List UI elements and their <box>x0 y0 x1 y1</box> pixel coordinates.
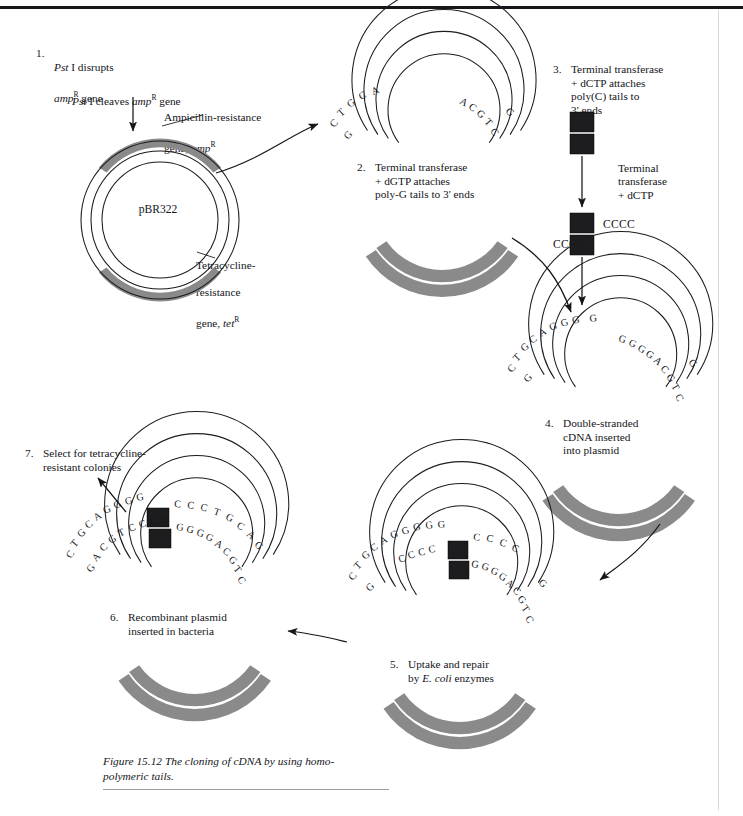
tet-gene-arc <box>99 267 221 301</box>
step5-cdna-block-top <box>448 541 468 559</box>
svg-text:A: A <box>245 528 258 542</box>
svg-text:T: T <box>212 505 222 518</box>
cdna-tailed <box>570 213 594 255</box>
svg-text:A: A <box>91 509 104 523</box>
svg-text:G: G <box>589 312 598 324</box>
svg-text:C: C <box>406 548 416 561</box>
svg-text:G: G <box>176 521 185 533</box>
svg-text:C: C <box>523 614 536 625</box>
step5-cdna-block-bottom <box>449 561 469 579</box>
amp-gene-arc <box>99 139 221 173</box>
step5-sequence-inner-left-tail: C C C C <box>397 543 437 565</box>
svg-text:A: A <box>90 550 103 563</box>
svg-text:C: C <box>82 518 94 531</box>
svg-text:G: G <box>363 580 377 593</box>
svg-text:C: C <box>235 574 248 586</box>
step5-sequence-far-right-inner: G <box>537 577 550 590</box>
svg-text:C: C <box>127 521 138 534</box>
svg-text:G: G <box>101 502 113 515</box>
cdna-tailed-block-top <box>570 213 594 233</box>
cdna-tailed-block-bottom <box>570 235 594 255</box>
svg-text:G: G <box>135 491 145 503</box>
svg-text:G: G <box>224 511 236 524</box>
svg-text:G: G <box>687 357 700 370</box>
step5-sequence-left-inner: G <box>363 580 377 593</box>
svg-text:C: C <box>187 499 195 511</box>
tet-label-leader <box>197 252 215 258</box>
svg-text:G: G <box>425 519 435 531</box>
cdna-block-top <box>570 112 594 132</box>
svg-text:G: G <box>475 107 488 121</box>
svg-text:C: C <box>97 541 109 554</box>
svg-text:G: G <box>437 518 446 530</box>
arrow-step1-to-step2 <box>216 124 318 173</box>
svg-text:T: T <box>511 351 524 364</box>
svg-text:C: C <box>327 117 340 130</box>
svg-text:C: C <box>417 546 426 558</box>
svg-text:C: C <box>346 570 359 582</box>
plasmid-step4 <box>529 231 713 541</box>
plasmid-step2 <box>352 0 536 297</box>
step2-arc-inner <box>388 54 500 143</box>
step5-cdna-insert <box>448 541 469 579</box>
arrow-step5-to-step6 <box>288 631 347 642</box>
step5-sequence-inner-right: G G G G A C G T C <box>471 558 537 625</box>
svg-text:C: C <box>527 333 539 346</box>
svg-text:A: A <box>378 533 390 547</box>
step2-sequence-left-outer: C T G C A <box>327 84 381 130</box>
plasmid-pbr322 <box>81 139 239 302</box>
arrow-step2-to-step4 <box>512 238 571 312</box>
svg-text:G: G <box>204 531 216 544</box>
step2-sequence-left-inner: G <box>341 128 355 141</box>
svg-text:C: C <box>357 89 368 102</box>
cdna-untailed <box>570 112 594 154</box>
svg-text:G: G <box>547 320 559 333</box>
step2-sequence-right-outer: A C G T C <box>458 95 501 138</box>
svg-text:C: C <box>64 548 77 560</box>
svg-text:G: G <box>388 528 400 541</box>
svg-text:C: C <box>488 126 501 138</box>
svg-text:C: C <box>200 501 209 513</box>
svg-text:C: C <box>235 519 247 532</box>
svg-text:G: G <box>106 532 119 546</box>
svg-text:T: T <box>483 116 496 129</box>
svg-text:A: A <box>537 325 549 339</box>
svg-text:G: G <box>480 560 491 573</box>
svg-text:C: C <box>137 517 147 530</box>
svg-text:T: T <box>669 381 682 393</box>
plasmid-step6 <box>105 411 289 721</box>
step6-cdna-block-bottom <box>149 529 171 548</box>
svg-text:G: G <box>186 523 196 535</box>
svg-text:G: G <box>253 539 267 552</box>
svg-text:G: G <box>559 316 570 329</box>
svg-text:G: G <box>471 558 480 570</box>
svg-text:C: C <box>505 362 518 374</box>
figure-page: 1. Pst I disrupts ampR gene Pst I cleave… <box>0 0 743 816</box>
step4-sequence-left-outer: C T G C A G G G G <box>505 312 598 374</box>
svg-text:T: T <box>352 559 365 572</box>
svg-text:C: C <box>510 542 521 555</box>
step5-sequence-outer-right-tail: C C C C <box>473 531 521 555</box>
svg-text:T: T <box>335 106 348 119</box>
svg-text:A: A <box>370 84 382 97</box>
svg-text:G: G <box>112 498 123 511</box>
plasmid-mid-ring <box>91 151 229 289</box>
svg-text:G: G <box>400 524 411 537</box>
step4-arc-outer <box>529 231 713 374</box>
svg-text:C: C <box>673 392 686 403</box>
plasmid-inner-ring <box>102 162 218 278</box>
cdna-block-bottom <box>570 134 594 154</box>
svg-text:G: G <box>341 128 355 141</box>
svg-text:T: T <box>116 526 127 539</box>
svg-text:C: C <box>473 531 481 543</box>
step4-sequence-right-inner: G <box>687 357 700 370</box>
svg-text:C: C <box>174 498 182 509</box>
svg-text:G: G <box>504 105 517 119</box>
svg-text:G: G <box>537 577 550 590</box>
step2-sequence-right-inner: G <box>504 105 517 119</box>
diagram-vectors: C T G C A G A C G T C G <box>0 0 743 816</box>
step6-sequence-inner-right: G G G G A C G T C <box>176 521 249 586</box>
svg-text:G: G <box>521 371 535 384</box>
amp-label-leader <box>162 115 203 126</box>
svg-text:G: G <box>617 332 628 345</box>
